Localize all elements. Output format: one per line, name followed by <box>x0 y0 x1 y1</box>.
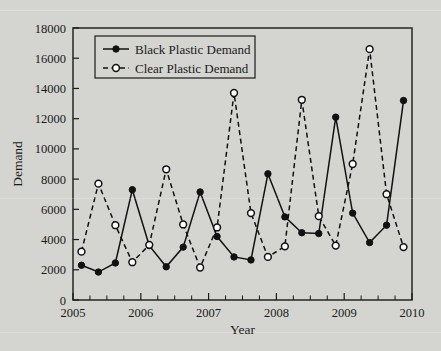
y-tick-label-14000: 14000 <box>35 82 66 96</box>
data-point-1-1 <box>95 180 102 187</box>
x-tick-label-2006: 2006 <box>128 306 153 320</box>
data-point-0-15 <box>333 114 339 120</box>
x-tick-label-2007: 2007 <box>196 306 221 320</box>
legend-marker-0 <box>113 46 119 52</box>
x-tick-label-2008: 2008 <box>264 306 289 320</box>
data-point-1-10 <box>248 210 255 217</box>
x-tick-label-2005: 2005 <box>61 306 86 320</box>
data-point-1-9 <box>231 90 238 97</box>
data-point-1-15 <box>332 242 339 249</box>
y-tick-label-12000: 12000 <box>35 112 66 126</box>
data-point-0-5 <box>163 264 169 270</box>
data-point-1-12 <box>281 243 288 250</box>
y-tick-label-2000: 2000 <box>41 263 66 277</box>
legend-label-0: Black Plastic Demand <box>135 42 251 57</box>
x-tick-label-2010: 2010 <box>400 306 425 320</box>
data-point-0-3 <box>129 186 135 192</box>
data-point-1-11 <box>265 254 272 261</box>
data-point-0-19 <box>400 97 406 103</box>
data-point-1-17 <box>366 46 373 53</box>
data-point-0-2 <box>112 260 118 266</box>
data-point-0-8 <box>214 233 220 239</box>
data-point-0-6 <box>180 244 186 250</box>
data-point-0-1 <box>95 269 101 275</box>
x-tick-label-2009: 2009 <box>332 306 357 320</box>
data-point-0-14 <box>316 230 322 236</box>
data-point-1-6 <box>180 221 187 228</box>
data-point-0-9 <box>231 254 237 260</box>
plastic-demand-line-chart: 0200040006000800010000120001400016000180… <box>0 0 441 351</box>
data-point-0-0 <box>78 262 84 268</box>
y-tick-label-4000: 4000 <box>41 233 66 247</box>
legend-label-1: Clear Plastic Demand <box>135 61 249 76</box>
x-axis-title: Year <box>230 322 255 337</box>
y-tick-label-18000: 18000 <box>35 22 66 36</box>
data-point-1-13 <box>298 96 305 103</box>
data-point-1-5 <box>163 166 170 173</box>
data-point-0-10 <box>248 257 254 263</box>
data-point-1-4 <box>146 241 153 248</box>
y-axis-title: Demand <box>10 141 25 187</box>
data-point-1-0 <box>78 248 85 255</box>
data-point-0-13 <box>299 230 305 236</box>
data-point-0-16 <box>349 210 355 216</box>
data-point-1-7 <box>197 264 204 271</box>
data-point-1-16 <box>349 161 356 168</box>
data-point-0-11 <box>265 171 271 177</box>
y-tick-label-16000: 16000 <box>35 52 66 66</box>
data-point-0-7 <box>197 189 203 195</box>
data-point-1-18 <box>383 191 390 198</box>
data-point-0-17 <box>366 239 372 245</box>
y-tick-label-8000: 8000 <box>41 173 66 187</box>
legend-marker-1 <box>113 65 120 72</box>
data-point-0-12 <box>282 214 288 220</box>
data-point-1-3 <box>129 259 136 266</box>
data-point-0-18 <box>383 222 389 228</box>
chart-figure: 0200040006000800010000120001400016000180… <box>0 0 441 351</box>
data-point-1-2 <box>112 222 119 229</box>
y-tick-label-10000: 10000 <box>35 142 66 156</box>
data-point-1-14 <box>315 213 322 220</box>
data-point-1-8 <box>214 224 221 231</box>
y-tick-label-6000: 6000 <box>41 203 66 217</box>
data-point-1-19 <box>400 244 407 251</box>
